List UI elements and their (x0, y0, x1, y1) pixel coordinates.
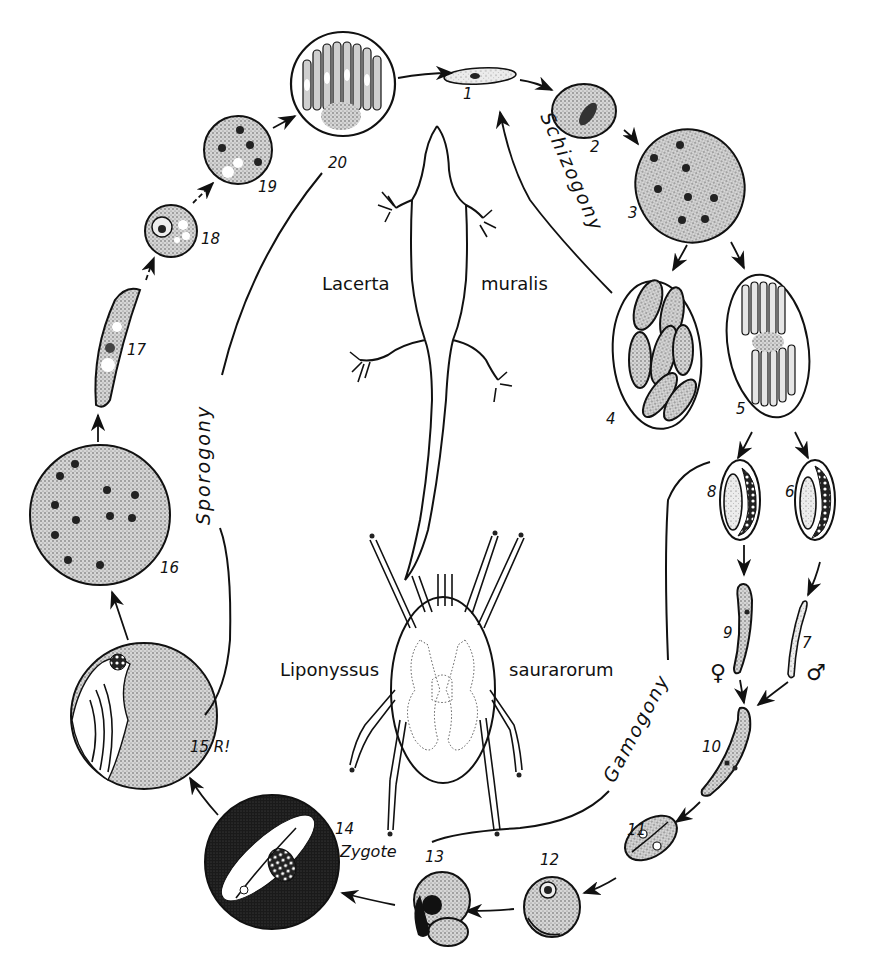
stage-18-sporoblast: 18 (145, 205, 220, 257)
stage-label-12: 12 (540, 851, 559, 869)
stage-16-oocyst: 16 (30, 445, 179, 585)
stage-10-fertilization: 10 (702, 708, 751, 796)
mite-species-label: saurarorum (509, 659, 614, 680)
stage-17-sporoblast-elongate: 17 (95, 289, 146, 407)
arrow-11-to-12 (584, 878, 616, 893)
stage-6-microgametocyte: 6 (785, 460, 835, 540)
stage-label-9: 9 (723, 624, 733, 642)
arrow-18-to-19 (193, 183, 213, 203)
arrow-3-to-4 (673, 245, 687, 270)
lizard-species-label: muralis (481, 273, 548, 294)
stage-9-macrogamete: 9 ♀ (710, 584, 752, 685)
stage-20-sporocyst-with-sporozoites: 20 (291, 32, 395, 172)
stage-label-19: 19 (258, 178, 277, 196)
arrow-15-to-16 (112, 592, 128, 640)
stage-12-zygote: 12 (524, 851, 580, 937)
arrow-7-to-10 (758, 682, 788, 705)
male-symbol: ♂ (806, 660, 826, 685)
stage-label-13: 13 (425, 848, 444, 866)
arrow-6-to-7 (808, 562, 820, 595)
stage-label-10: 10 (702, 738, 721, 756)
stage-3-schizont: 3 (617, 112, 763, 261)
stage-11-zygote-early: 11 (617, 807, 685, 870)
stage-label-6: 6 (785, 483, 795, 501)
sporogony-bracket: Sporogony (192, 173, 322, 715)
arrow-5-to-6 (795, 432, 808, 458)
life-cycle-diagram: 1 2 3 4 (0, 0, 872, 966)
stage-label-16: 16 (160, 559, 179, 577)
stage-1-sporozoite: 1 (444, 66, 517, 103)
stage-label-5: 5 (736, 400, 746, 418)
arrow-10-to-11 (676, 802, 700, 822)
stage-label-2: 2 (590, 138, 600, 156)
stage-label-4: 4 (606, 410, 616, 428)
arrow-19-to-20 (273, 116, 295, 128)
stage-label-11: 11 (627, 821, 646, 839)
stage-label-17: 17 (127, 341, 147, 359)
zygote-label: Zygote (339, 842, 397, 861)
arrow-5-to-8 (738, 432, 752, 458)
stage-8-macrogametocyte: 8 (707, 460, 760, 540)
stage-label-1: 1 (463, 85, 473, 103)
stage-15-ookinete-release: 15 R! (71, 643, 230, 789)
arrow-2-to-3 (624, 130, 638, 144)
arrow-14-to-15 (190, 778, 218, 815)
stage-label-8: 8 (707, 483, 717, 501)
lizard-genus-label: Lacerta (322, 273, 390, 294)
stage-5-microschizont: 5 (716, 268, 820, 424)
stage-label-18: 18 (201, 230, 220, 248)
stage-13-zygote-invading: 13 (414, 848, 470, 946)
lizard-host-illustration: Lacerta muralis (322, 126, 548, 580)
arrow-12-to-13 (466, 909, 514, 911)
arrow-1-to-2 (520, 80, 552, 90)
mite-genus-label: Liponyssus (280, 659, 379, 680)
female-symbol: ♀ (710, 660, 726, 685)
arrow-13-to-14 (342, 893, 395, 905)
arrow-17-to-18 (146, 258, 154, 280)
stage-7-microgamete: 7 ♂ (788, 601, 826, 685)
stage-19-sporoblast-multinucleate: 19 (204, 116, 277, 196)
stage-4-macroschizont: 4 (606, 276, 707, 432)
mite-vector-illustration: Liponyssus saurarorum (280, 531, 614, 837)
stage-label-15: 15 R! (190, 738, 230, 756)
stage-label-14: 14 (335, 820, 354, 838)
stage-label-3: 3 (628, 204, 638, 222)
arrow-3-to-5 (731, 242, 744, 268)
stage-label-20: 20 (328, 154, 347, 172)
stage-14-zygote-in-cell: 14 Zygote (205, 795, 397, 929)
gamogony-label: Gamogony (598, 670, 674, 786)
sporogony-label: Sporogony (192, 405, 214, 525)
arrow-9-to-10 (740, 680, 744, 703)
stage-label-7: 7 (802, 634, 812, 652)
